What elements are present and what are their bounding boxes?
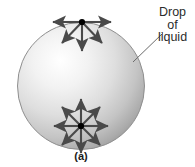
figure-caption: (a) [0,150,162,162]
label-line-3: liquid [150,31,195,44]
interior-molecule-dot [78,123,84,129]
surface-molecule-dot [79,19,85,25]
drop-of-liquid-label: Drop of liquid [150,6,195,44]
label-line-1: Drop [150,6,195,19]
